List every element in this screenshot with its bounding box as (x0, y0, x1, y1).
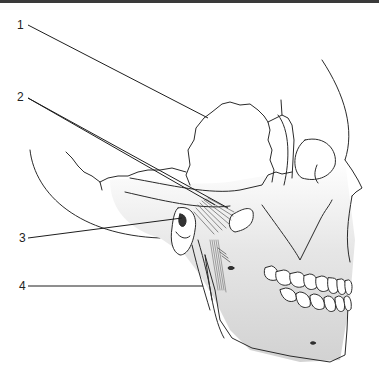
skull-diagram (0, 0, 379, 390)
temporal-suture (186, 102, 274, 185)
sphenoid-line (281, 100, 282, 115)
label-3: 3 (19, 232, 26, 244)
mandibular-foramen (228, 267, 234, 270)
label-2: 2 (17, 91, 24, 103)
skull-lower-shade (110, 160, 355, 362)
leader-line-1 (28, 25, 208, 118)
label-1: 1 (17, 19, 24, 31)
ear-canal (179, 214, 186, 226)
sphenoid-suture (268, 115, 294, 178)
label-4: 4 (19, 280, 26, 292)
mental-foramen (311, 342, 316, 344)
